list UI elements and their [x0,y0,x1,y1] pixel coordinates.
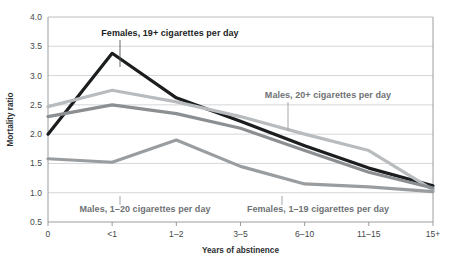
y-tick-1.0: 1.0 [30,188,42,198]
x-tick-6: 15+ [426,229,441,239]
x-axis-tickmarks [48,222,433,226]
x-tick-4: 6–10 [295,229,314,239]
y-tick-0.5: 0.5 [30,217,42,227]
data-series-group [48,53,433,191]
chart-canvas: 0.51.01.52.02.53.03.54.0 0<11–23–56–1011… [0,0,453,264]
annot-males-1to20: Males, 1–20 cigarettes per day [79,204,210,214]
axis-lines [48,17,433,222]
mortality-ratio-line-chart: 0.51.01.52.02.53.03.54.0 0<11–23–56–1011… [0,0,453,264]
y-tick-3.0: 3.0 [30,71,42,81]
x-tick-5: 11–15 [357,229,381,239]
gridlines-group [48,17,433,222]
y-axis-tick-labels: 0.51.01.52.02.53.03.54.0 [30,12,42,227]
x-tick-3: 3–5 [233,229,248,239]
x-axis-title: Years of abstinence [202,246,279,255]
annot-females-19plus: Females, 19+ cigarettes per day [101,28,238,38]
series-line-3 [48,140,433,192]
x-axis-tick-labels: 0<11–23–56–1011–1515+ [46,229,441,239]
annot-males-20plus: Males, 20+ cigarettes per day [265,90,391,100]
y-tick-3.5: 3.5 [30,41,42,51]
annot-females-1to19: Females, 1–19 cigarettes per day [247,204,389,214]
y-tick-4.0: 4.0 [30,12,42,22]
x-tick-2: 1–2 [169,229,184,239]
y-tick-1.5: 1.5 [30,158,42,168]
x-tick-1: <1 [107,229,117,239]
y-tick-2.0: 2.0 [30,129,42,139]
x-tick-0: 0 [46,229,51,239]
y-tick-2.5: 2.5 [30,100,42,110]
y-axis-title: Mortality ratio [6,92,15,146]
